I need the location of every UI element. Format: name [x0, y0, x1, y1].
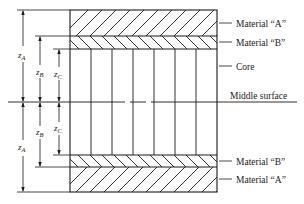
label-core: Core	[236, 62, 254, 72]
label-middle-surface: Middle surface	[230, 91, 287, 101]
dimension-arrowheads	[21, 10, 60, 192]
dim-label-zc-bottom: zC	[53, 123, 63, 134]
top-material-b-layer	[66, 36, 223, 49]
label-material-a-top: Material “A”	[236, 19, 286, 29]
label-material-b-top: Material “B”	[236, 38, 285, 48]
label-material-b-bottom: Material “B”	[236, 157, 285, 167]
bottom-material-a-layer	[62, 167, 241, 192]
label-material-a-bottom: Material “A”	[236, 175, 286, 185]
bottom-material-b-layer	[66, 155, 222, 167]
sandwich-cross-section-diagram: zA zB zC zC zB zA Material “A” Material …	[0, 0, 304, 204]
dim-label-zb-bottom: zB	[35, 127, 44, 138]
layer-boundaries	[70, 10, 217, 192]
dim-label-zb-top: zB	[35, 67, 44, 78]
dim-label-zc-top: zC	[53, 69, 63, 80]
dim-label-za-top: zA	[17, 50, 26, 61]
top-material-a-layer	[62, 10, 242, 36]
label-leaders	[219, 23, 232, 179]
dim-label-za-bottom: zA	[17, 142, 26, 153]
dimension-extension-lines	[17, 10, 70, 192]
